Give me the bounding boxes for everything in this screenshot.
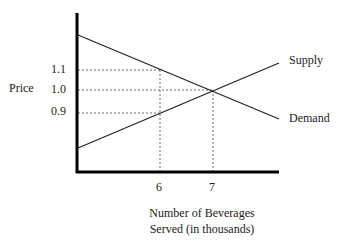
supply-line bbox=[78, 63, 279, 148]
y-tick-0-9: 0.9 bbox=[51, 104, 66, 119]
supply-label: Supply bbox=[289, 53, 323, 68]
x-tick-6: 6 bbox=[156, 180, 162, 195]
x-axis-label: Number of Beverages Served (in thousands… bbox=[136, 205, 268, 237]
x-tick-7: 7 bbox=[209, 180, 215, 195]
demand-label: Demand bbox=[289, 111, 330, 126]
demand-line bbox=[78, 35, 279, 119]
x-axis-label-line1: Number of Beverages bbox=[136, 205, 268, 221]
y-axis-label: Price bbox=[9, 81, 34, 96]
x-axis-label-line2: Served (in thousands) bbox=[136, 221, 268, 237]
y-tick-1-1: 1.1 bbox=[51, 62, 66, 77]
y-tick-1-0: 1.0 bbox=[51, 82, 66, 97]
reference-lines bbox=[78, 70, 213, 172]
